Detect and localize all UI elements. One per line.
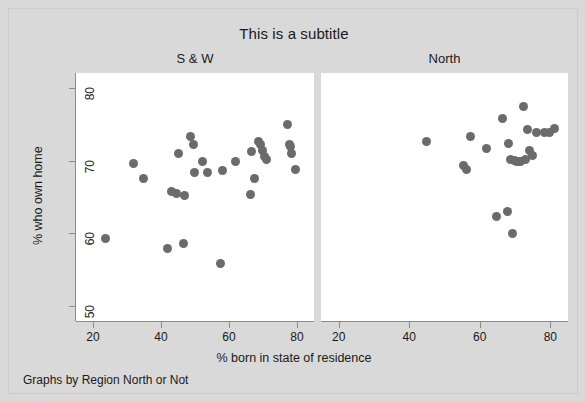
data-point: [203, 168, 212, 177]
data-point: [246, 190, 255, 199]
plot-area-sw: [76, 73, 314, 321]
data-point: [498, 114, 507, 123]
y-axis-line: [75, 73, 76, 321]
x-tick: [161, 322, 162, 328]
y-tick-label: 80: [83, 87, 97, 113]
panel-title-north: North: [321, 51, 568, 66]
data-point: [189, 140, 198, 149]
y-tick-label: 50: [83, 305, 97, 331]
data-point: [216, 259, 225, 268]
data-point: [508, 229, 517, 238]
chart-note: Graphs by Region North or Not: [23, 373, 188, 387]
x-axis-line-1: [321, 321, 568, 322]
x-tick: [339, 322, 340, 328]
data-point: [129, 159, 138, 168]
data-point: [139, 174, 148, 183]
x-tick-label: 60: [463, 330, 497, 344]
graph-frame: This is a subtitle S & W2040608050607080…: [8, 8, 578, 394]
y-tick-label: 60: [83, 232, 97, 258]
x-axis-line-0: [76, 321, 314, 322]
data-point: [190, 168, 199, 177]
x-axis-title: % born in state of residence: [9, 351, 579, 365]
x-tick-label: 20: [76, 330, 110, 344]
data-point: [198, 157, 207, 166]
data-point: [492, 212, 501, 221]
data-point: [262, 155, 271, 164]
y-tick: [69, 233, 75, 234]
data-point: [550, 124, 559, 133]
x-tick: [480, 322, 481, 328]
data-point: [287, 149, 296, 158]
data-point: [283, 120, 292, 129]
data-point: [466, 132, 475, 141]
x-tick-label: 40: [392, 330, 426, 344]
x-tick: [550, 322, 551, 328]
data-point: [250, 174, 259, 183]
data-point: [504, 139, 513, 148]
x-tick-label: 60: [212, 330, 246, 344]
y-tick: [69, 88, 75, 89]
data-point: [163, 244, 172, 253]
x-tick: [229, 322, 230, 328]
data-point: [462, 165, 471, 174]
data-point: [218, 166, 227, 175]
data-point: [179, 239, 188, 248]
chart-subtitle: This is a subtitle: [9, 25, 579, 42]
panel-title-sw: S & W: [76, 51, 314, 66]
data-point: [180, 191, 189, 200]
y-tick-label: 70: [83, 160, 97, 186]
y-axis-title: % who own home: [31, 146, 45, 245]
y-tick: [69, 306, 75, 307]
x-tick-label: 80: [280, 330, 314, 344]
plot-area-north: [321, 73, 568, 321]
data-point: [231, 157, 240, 166]
data-point: [528, 151, 537, 160]
data-point: [422, 137, 431, 146]
data-point: [291, 165, 300, 174]
y-tick: [69, 161, 75, 162]
data-point: [523, 125, 532, 134]
x-tick: [409, 322, 410, 328]
x-tick: [297, 322, 298, 328]
data-point: [247, 147, 256, 156]
x-tick-label: 40: [144, 330, 178, 344]
data-point: [503, 207, 512, 216]
data-point: [101, 234, 110, 243]
data-point: [519, 102, 528, 111]
chart-screenshot: This is a subtitle S & W2040608050607080…: [0, 0, 586, 402]
data-point: [482, 144, 491, 153]
x-tick-label: 20: [322, 330, 356, 344]
x-tick-label: 80: [533, 330, 567, 344]
data-point: [174, 149, 183, 158]
